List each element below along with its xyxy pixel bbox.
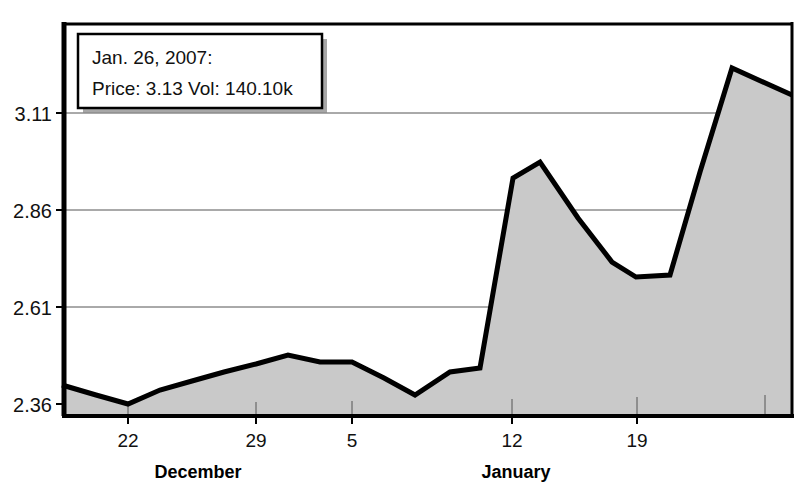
x-tick-label-29: 29 bbox=[245, 430, 266, 451]
y-tick-label-1: 2.61 bbox=[13, 297, 52, 319]
tooltip-date-line: Jan. 26, 2007: bbox=[92, 47, 212, 68]
y-tick-label-0: 2.36 bbox=[13, 394, 52, 416]
x-tick-label-12: 12 bbox=[501, 430, 522, 451]
y-tick-label-3: 3.11 bbox=[15, 103, 52, 125]
stock-price-chart: 3.11 2.86 2.61 2.36 22 29 5 12 19 Decemb… bbox=[0, 0, 805, 495]
x-tick-label-22: 22 bbox=[117, 430, 138, 451]
x-tick-label-19: 19 bbox=[626, 430, 647, 451]
price-tooltip[interactable]: Jan. 26, 2007: Price: 3.13 Vol: 140.10k bbox=[78, 34, 327, 113]
month-label-january: January bbox=[481, 462, 550, 482]
y-tick-label-2: 2.86 bbox=[13, 200, 52, 222]
tooltip-detail-line: Price: 3.13 Vol: 140.10k bbox=[92, 78, 293, 99]
x-tick-label-5: 5 bbox=[347, 430, 358, 451]
chart-canvas: 3.11 2.86 2.61 2.36 22 29 5 12 19 Decemb… bbox=[0, 0, 805, 495]
month-label-december: December bbox=[154, 462, 241, 482]
